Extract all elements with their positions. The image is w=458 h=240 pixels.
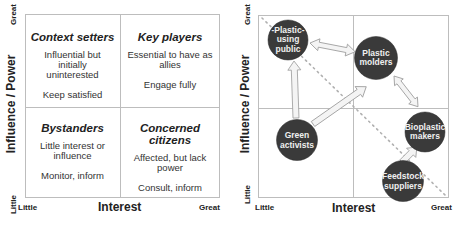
label-line: activists <box>280 141 314 151</box>
label-line: molders <box>359 58 392 68</box>
stakeholder-plastic-molders: Plastic molders <box>354 37 398 79</box>
arrow-green-to-public <box>288 61 303 118</box>
label-line: public <box>275 45 300 55</box>
arrow-green-to-molders <box>309 81 370 129</box>
stakeholder-bioplastic-makers: Bioplastic makers <box>403 112 447 152</box>
label-line: makers <box>410 132 440 142</box>
arrow-public-molders <box>309 37 356 58</box>
stakeholder-feedstock-suppliers: Feedstock suppliers <box>381 161 425 202</box>
label-line: suppliers <box>384 182 422 192</box>
stakeholder-plastic-using-public: -Plastic- using public <box>268 20 308 60</box>
stakeholder-green-activists: Green activists <box>276 120 318 161</box>
